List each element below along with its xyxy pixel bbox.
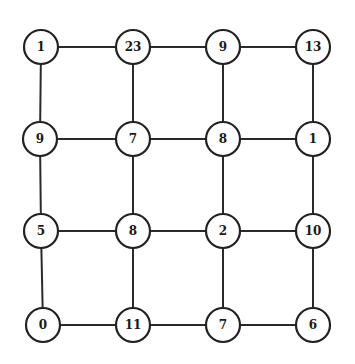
node-label: 9 [219,40,227,54]
node-label: 23 [125,40,142,54]
node-r2-c0: 5 [24,214,58,248]
node-r1-c2: 8 [206,122,240,156]
node-r1-c0: 9 [23,122,57,156]
node-r3-c2: 7 [206,308,240,342]
node-label: 1 [37,40,45,54]
node-label: 13 [305,40,322,54]
node-label: 7 [219,318,227,332]
node-r3-c3: 6 [296,308,330,342]
node-label: 11 [125,318,142,332]
node-label: 9 [36,132,44,146]
node-label: 8 [129,224,137,238]
grid-graph-diagram: 1 23 9 13 9 7 8 1 [0,0,355,364]
node-label: 6 [309,318,317,332]
node-label: 2 [219,224,227,238]
node-label: 5 [37,224,45,238]
node-r3-c0: 0 [26,308,60,342]
node-label: 10 [305,224,322,238]
node-r2-c1: 8 [116,214,150,248]
node-label: 7 [129,132,137,146]
edges [40,47,313,325]
node-label: 8 [219,132,227,146]
node-label: 0 [39,318,47,332]
nodes: 1 23 9 13 9 7 8 1 [23,30,330,342]
node-r1-c1: 7 [116,122,150,156]
node-r1-c3: 1 [296,122,330,156]
node-r0-c2: 9 [206,30,240,64]
node-r2-c2: 2 [206,214,240,248]
node-r0-c1: 23 [116,30,150,64]
node-r3-c1: 11 [116,308,150,342]
node-r0-c0: 1 [24,30,58,64]
node-r2-c3: 10 [296,214,330,248]
node-r0-c3: 13 [296,30,330,64]
node-label: 1 [309,132,317,146]
